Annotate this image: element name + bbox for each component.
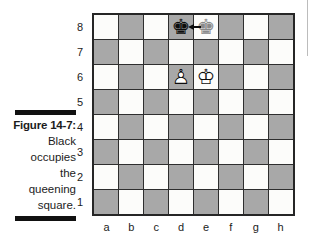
square-c4 bbox=[144, 115, 168, 139]
square-a5 bbox=[94, 90, 118, 114]
square-h5 bbox=[269, 90, 293, 114]
square-g3 bbox=[244, 140, 268, 164]
file-label-g: g bbox=[243, 221, 268, 233]
square-f7 bbox=[219, 40, 243, 64]
white-pawn-fill-icon: ♟ bbox=[169, 65, 193, 89]
square-g2 bbox=[244, 165, 268, 189]
rank-label-3: 3 bbox=[60, 139, 86, 164]
rank-label-2: 2 bbox=[60, 164, 86, 189]
square-b4 bbox=[119, 115, 143, 139]
square-b3 bbox=[119, 140, 143, 164]
page-edge-artifact bbox=[307, 0, 308, 56]
square-g8 bbox=[244, 15, 268, 39]
square-d7 bbox=[169, 40, 193, 64]
file-label-h: h bbox=[268, 221, 293, 233]
square-g5 bbox=[244, 90, 268, 114]
square-g1 bbox=[244, 190, 268, 214]
square-b5 bbox=[119, 90, 143, 114]
square-c2 bbox=[144, 165, 168, 189]
square-c3 bbox=[144, 140, 168, 164]
rank-label-6: 6 bbox=[60, 65, 86, 90]
square-c7 bbox=[144, 40, 168, 64]
square-d4 bbox=[169, 115, 193, 139]
square-e3 bbox=[194, 140, 218, 164]
square-d6: ♟♙ bbox=[169, 65, 193, 89]
square-d2 bbox=[169, 165, 193, 189]
square-h4 bbox=[269, 115, 293, 139]
square-c5 bbox=[144, 90, 168, 114]
square-h8 bbox=[269, 15, 293, 39]
square-h6 bbox=[269, 65, 293, 89]
square-h3 bbox=[269, 140, 293, 164]
rank-label-4: 4 bbox=[60, 115, 86, 140]
file-labels: abcdefgh bbox=[94, 221, 293, 233]
chessboard: ♚♚♟♙♚♔ bbox=[92, 13, 295, 216]
book-figure-page: Figure 14-7: Blackoccupiesthequeeningsqu… bbox=[0, 0, 309, 248]
square-f5 bbox=[219, 90, 243, 114]
square-e7 bbox=[194, 40, 218, 64]
square-g7 bbox=[244, 40, 268, 64]
square-a1 bbox=[94, 190, 118, 214]
square-h1 bbox=[269, 190, 293, 214]
square-e5 bbox=[194, 90, 218, 114]
white-pawn-icon: ♙ bbox=[169, 65, 193, 89]
file-label-b: b bbox=[119, 221, 144, 233]
board-squares: ♚♚♟♙♚♔ bbox=[94, 15, 293, 214]
square-e6: ♚♔ bbox=[194, 65, 218, 89]
square-f6 bbox=[219, 65, 243, 89]
white-king-fill-icon: ♚ bbox=[194, 65, 218, 89]
square-a7 bbox=[94, 40, 118, 64]
rank-label-5: 5 bbox=[60, 90, 86, 115]
white-king-icon: ♔ bbox=[194, 65, 218, 89]
file-label-f: f bbox=[218, 221, 243, 233]
square-c8 bbox=[144, 15, 168, 39]
square-b2 bbox=[119, 165, 143, 189]
square-f3 bbox=[219, 140, 243, 164]
square-a8 bbox=[94, 15, 118, 39]
file-label-d: d bbox=[169, 221, 194, 233]
square-f2 bbox=[219, 165, 243, 189]
rank-label-8: 8 bbox=[60, 15, 86, 40]
square-a4 bbox=[94, 115, 118, 139]
square-g6 bbox=[244, 65, 268, 89]
square-h2 bbox=[269, 165, 293, 189]
file-label-c: c bbox=[144, 221, 169, 233]
caption-bar-bottom bbox=[15, 216, 76, 221]
square-d3 bbox=[169, 140, 193, 164]
square-g4 bbox=[244, 115, 268, 139]
square-h7 bbox=[269, 40, 293, 64]
square-b1 bbox=[119, 190, 143, 214]
square-a6 bbox=[94, 65, 118, 89]
square-b7 bbox=[119, 40, 143, 64]
file-label-e: e bbox=[194, 221, 219, 233]
square-e2 bbox=[194, 165, 218, 189]
square-f8 bbox=[219, 15, 243, 39]
rank-label-1: 1 bbox=[60, 189, 86, 214]
square-e4 bbox=[194, 115, 218, 139]
square-b6 bbox=[119, 65, 143, 89]
arrow-shaft bbox=[194, 26, 201, 28]
square-f4 bbox=[219, 115, 243, 139]
square-b8 bbox=[119, 15, 143, 39]
square-a2 bbox=[94, 165, 118, 189]
square-d5 bbox=[169, 90, 193, 114]
move-arrow-icon bbox=[188, 24, 201, 31]
square-d1 bbox=[169, 190, 193, 214]
rank-labels: 87654321 bbox=[60, 15, 86, 214]
square-e1 bbox=[194, 190, 218, 214]
file-label-a: a bbox=[94, 221, 119, 233]
square-c1 bbox=[144, 190, 168, 214]
square-c6 bbox=[144, 65, 168, 89]
rank-label-7: 7 bbox=[60, 40, 86, 65]
square-f1 bbox=[219, 190, 243, 214]
square-a3 bbox=[94, 140, 118, 164]
